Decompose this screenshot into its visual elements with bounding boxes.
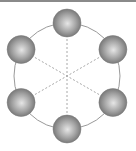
- sphere-6: [7, 36, 35, 64]
- diameter-lines: [21, 23, 113, 129]
- sphere-3: [99, 89, 127, 117]
- sphere-4: [53, 115, 81, 143]
- sphere-2: [99, 36, 127, 64]
- diameter-line-3: [21, 50, 113, 103]
- sphere-ring-diagram: [0, 0, 136, 151]
- sphere-5: [7, 89, 35, 117]
- sphere-1: [53, 9, 81, 37]
